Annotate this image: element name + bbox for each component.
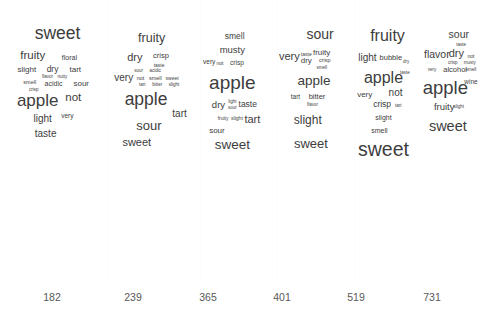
panel-label-0: 182 <box>43 291 61 303</box>
cloud-word: fruity <box>20 50 45 62</box>
cloud-word: taste <box>35 129 57 139</box>
cloud-word: tart <box>395 104 402 109</box>
cloud-word: slight <box>375 114 391 121</box>
cloud-word: apple <box>297 74 330 88</box>
cloud-word: not <box>217 61 224 66</box>
cloud-word: dry <box>449 48 464 59</box>
word-cloud-5: sourtasteflavordrynotcrispmustyveryalcoh… <box>421 0 482 275</box>
cloud-word: light <box>33 114 51 124</box>
cloud-word: very <box>428 68 437 73</box>
cloud-word: sweet <box>358 140 409 160</box>
cloud-word: dry <box>212 100 225 110</box>
cloud-word: sweet <box>122 137 151 148</box>
word-cloud-panel: fruitydrycrisptastesouracidicverynotsmel… <box>107 0 200 275</box>
cloud-word: slight <box>231 116 243 121</box>
cloud-word: apple <box>125 91 168 109</box>
cloud-word: acidic <box>150 69 162 74</box>
cloud-word: very <box>279 51 300 62</box>
cloud-word: smell <box>23 80 36 86</box>
word-cloud-1: fruitydrycrisptastesouracidicverynotsmel… <box>107 0 200 275</box>
cloud-word: smell <box>316 66 327 71</box>
word-cloud-panel: sourverytastefruitydrycrispsmellappletar… <box>277 0 354 275</box>
cloud-word: tart <box>139 83 146 88</box>
cloud-word: acidic <box>45 80 63 87</box>
cloud-word: slight <box>294 114 322 126</box>
cloud-word: sour <box>73 80 89 88</box>
cloud-word: slight <box>169 83 180 88</box>
cloud-word: dry <box>301 57 312 65</box>
cloud-word: fruity <box>218 116 229 121</box>
cloud-word: bubble <box>380 54 403 62</box>
cloud-word: fruity <box>434 102 455 112</box>
cloud-word: crisp <box>153 52 169 60</box>
cloud-word: tart <box>244 114 260 125</box>
cloud-word: slight <box>17 66 36 74</box>
cloud-word: sweet <box>35 25 81 43</box>
word-cloud-figure: sweetfruityfloralslightdrytartflavornutt… <box>0 0 482 311</box>
word-cloud-panel: fruitylightbubbledryappletasteverynotcri… <box>354 0 421 275</box>
cloud-word: not <box>65 92 81 104</box>
cloud-word: very <box>114 73 133 83</box>
cloud-word: fruity <box>313 49 330 57</box>
cloud-word: very <box>61 113 73 120</box>
cloud-word: apple <box>364 70 403 86</box>
cloud-word: flavor <box>307 103 318 108</box>
cloud-word: apple <box>209 73 256 92</box>
panel-label-5: 731 <box>423 291 441 303</box>
cloud-word: fruity <box>138 32 165 45</box>
cloud-word: sweet <box>166 76 179 81</box>
cloud-word: light <box>358 53 376 63</box>
word-cloud-panel: sourtasteflavordrynotcrispmustyveryalcoh… <box>421 0 482 275</box>
panel-label-1: 239 <box>124 291 142 303</box>
word-cloud-0: sweetfruityfloralslightdrytartflavornutt… <box>8 0 107 275</box>
word-cloud-panel: smellmustyverynotcrispappledrylightsourt… <box>200 0 277 275</box>
cloud-word: dry <box>403 60 409 65</box>
cloud-word: very <box>357 91 372 99</box>
cloud-word: sour <box>209 127 225 135</box>
word-cloud-3: sourverytastefruitydrycrispsmellappletar… <box>277 0 354 275</box>
cloud-word: smell <box>225 32 245 41</box>
cloud-word: sour <box>306 27 333 41</box>
cloud-word: tart <box>70 66 82 74</box>
cloud-word: musty <box>220 45 245 55</box>
word-cloud-4: fruitylightbubbledryappletasteverynotcri… <box>354 0 421 275</box>
cloud-word: very <box>203 59 215 66</box>
cloud-word: sweet <box>215 138 250 152</box>
cloud-word: sour <box>136 119 161 132</box>
cloud-word: fruity <box>370 28 405 44</box>
cloud-word: light <box>228 100 236 105</box>
cloud-word: crisp <box>230 60 244 67</box>
cloud-word: bitter <box>309 93 326 101</box>
panel-axis-labels: 182 239 365 401 519 731 <box>0 283 482 311</box>
cloud-word: taste <box>400 71 410 76</box>
cloud-word: dry <box>47 65 59 74</box>
panel-label-2: 365 <box>199 291 217 303</box>
cloud-word: crisp <box>373 100 391 109</box>
cloud-word: slight <box>454 105 465 110</box>
cloud-word: not <box>468 54 475 59</box>
cloud-word: flavor <box>424 49 450 60</box>
cloud-word: apple <box>423 79 468 98</box>
cloud-word: apple <box>17 92 59 109</box>
cloud-word: crisp <box>319 58 331 64</box>
cloud-word: floral <box>62 54 77 61</box>
cloud-word: sour <box>228 106 237 111</box>
cloud-word: sweet <box>294 137 328 150</box>
cloud-word: wine <box>464 79 477 86</box>
panel-label-3: 401 <box>273 291 291 303</box>
word-cloud-panel: sweetfruityfloralslightdrytartflavornutt… <box>8 0 107 275</box>
cloud-word: alcohol <box>443 66 467 74</box>
cloud-word: taste <box>154 63 165 68</box>
cloud-word: smell <box>466 68 477 73</box>
cloud-word: sweet <box>429 119 467 134</box>
cloud-word: dry <box>127 52 142 63</box>
cloud-word: tart <box>172 109 186 119</box>
panel-label-4: 519 <box>347 291 365 303</box>
cloud-word: not <box>389 88 403 98</box>
word-cloud-2: smellmustyverynotcrispappledrylightsourt… <box>200 0 277 275</box>
cloud-word: smell <box>371 127 387 134</box>
cloud-word: sour <box>134 69 143 74</box>
cloud-word: tart <box>291 94 300 101</box>
cloud-word: sour <box>449 29 469 40</box>
cloud-word: taste <box>239 100 257 109</box>
